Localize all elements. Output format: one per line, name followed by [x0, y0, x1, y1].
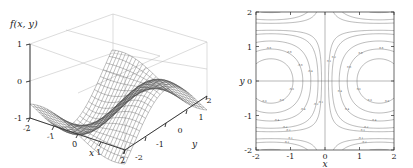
contour-label: -0.2 [282, 126, 287, 129]
surface-plot-panel: 1 0 -1 f(x, y) -2 -1 0 1 2 x [0, 0, 212, 168]
z-tick-neg1: -1 [14, 114, 22, 123]
contour-label: 0.6 [347, 66, 351, 69]
contour-label: 0.4 [372, 119, 376, 122]
contour-x-tick-neg1: -1 [287, 152, 295, 161]
contour-plot-panel: -0.8-0.8-0.8-0.6-0.6-0.6-0.4-0.4-0.4-0.2… [212, 0, 413, 168]
y-tick-neg1: -1 [156, 140, 164, 149]
contour-label: 0.6 [379, 47, 383, 50]
y-tick-0: 0 [177, 126, 182, 135]
surface-wireframe-mesh [30, 50, 207, 164]
contour-y-axis-label: y [238, 76, 245, 86]
contour-label: -0.4 [274, 119, 279, 122]
contour-label: 0.2 [364, 126, 368, 129]
x-tick-0: 0 [72, 140, 78, 150]
contour-label: -0.8 [289, 88, 294, 91]
contour-x-tick-1: 1 [357, 152, 362, 161]
y-tick-neg2: -2 [135, 153, 143, 162]
x-tick-1: 1 [96, 148, 102, 158]
z-axis-label: f(x, y) [9, 18, 38, 29]
contour-zero-level [256, 12, 394, 150]
z-tick-0: 0 [17, 77, 22, 86]
contour-label: 0.8 [385, 100, 389, 103]
contour-label: -0.1 [318, 101, 323, 104]
contour-label: -0.4 [300, 108, 305, 111]
contour-y-tick-2: 2 [247, 8, 252, 17]
y-tick-2: 2 [206, 96, 211, 105]
contour-label: 0.4 [345, 108, 349, 111]
contour-label: 0.1 [327, 60, 331, 63]
contour-label: 0.2 [332, 56, 336, 59]
contour-label: 0.1 [361, 129, 365, 132]
contour-label: -0.6 [287, 51, 292, 54]
contour-y-tick-1: 1 [247, 43, 252, 52]
contour-plot-svg: -0.8-0.8-0.8-0.6-0.6-0.6-0.4-0.4-0.4-0.2… [212, 0, 413, 168]
two-panel-figure: 1 0 -1 f(x, y) -2 -1 0 1 2 x [0, 0, 413, 168]
surface-z-axis [26, 44, 30, 119]
z-tick-1: 1 [17, 40, 22, 49]
contour-y-tick-neg2: -2 [244, 146, 252, 155]
contour-label: -0.4 [308, 70, 313, 73]
y-axis-label: y [191, 139, 198, 149]
contour-label-group: -0.8-0.8-0.8-0.6-0.6-0.6-0.4-0.4-0.4-0.2… [262, 47, 390, 144]
contour-label: -0.1 [286, 129, 291, 132]
contour-x-tick-2: 2 [391, 152, 396, 161]
contour-label: -0.6 [298, 64, 303, 67]
contour-label: 0.4 [338, 90, 342, 93]
contour-label: 0.1 [288, 137, 292, 140]
contour-label: -0.2 [362, 141, 367, 144]
contour-label: 0.6 [359, 52, 363, 55]
contour-label: -0.6 [266, 47, 271, 50]
surface-plot-svg: 1 0 -1 f(x, y) -2 -1 0 1 2 x [0, 0, 212, 168]
y-tick-1: 1 [198, 113, 203, 122]
contour-label: -0.8 [279, 99, 284, 102]
x-tick-neg2: -2 [22, 124, 31, 134]
contour-x-axis-label: x [322, 159, 327, 168]
x-tick-neg1: -1 [46, 132, 55, 142]
contour-label: 0.2 [285, 141, 289, 144]
contour-label: 0.8 [357, 88, 361, 91]
contour-label: 0.8 [368, 99, 372, 102]
contour-label: -0.8 [262, 100, 267, 103]
contour-x-tick-neg2: -2 [252, 152, 260, 161]
x-axis-label: x [89, 148, 94, 158]
contour-label: -0.1 [358, 137, 363, 140]
contour-y-tick-0: 0 [247, 77, 252, 86]
contour-y-tick-neg1: -1 [244, 112, 252, 121]
